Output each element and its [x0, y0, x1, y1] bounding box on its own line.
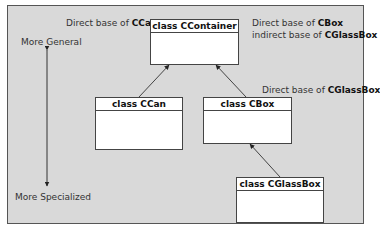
class-name: class CCan: [96, 98, 182, 111]
more-specialized-label: More Specialized: [15, 192, 91, 203]
arrow-cbox-to-ccontainer: [216, 65, 246, 97]
class-name: class CContainer: [151, 20, 238, 33]
arrow-cglassbox-to-cbox: [250, 144, 280, 177]
class-name: class CGlassBox: [237, 178, 323, 191]
class-box-ccontainer: class CContainer: [150, 19, 239, 65]
class-box-cglassbox: class CGlassBox: [236, 177, 324, 223]
annotation-ccan-base: Direct base of CCan: [66, 18, 157, 29]
annotation-cglassbox-indirect: indirect base of CGlassBox: [252, 30, 377, 41]
more-general-label: More General: [21, 37, 82, 48]
arrow-ccan-to-ccontainer: [139, 65, 169, 97]
class-box-cbox: class CBox: [203, 97, 292, 144]
class-name: class CBox: [204, 98, 291, 111]
annotation-cbox-base: Direct base of CBox: [252, 18, 343, 29]
class-box-ccan: class CCan: [95, 97, 183, 150]
annotation-cglassbox-direct: Direct base of CGlassBox: [262, 85, 380, 96]
